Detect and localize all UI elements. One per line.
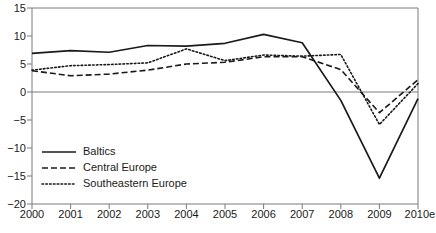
y-tick-marks xyxy=(27,8,32,204)
x-axis-tick-label: 2001 xyxy=(58,208,82,220)
axis-lines xyxy=(32,8,418,204)
legend-swatches xyxy=(42,152,76,184)
plot-area xyxy=(0,0,436,233)
x-axis-tick-label: 2004 xyxy=(174,208,198,220)
x-axis-tick-label: 2000 xyxy=(20,208,44,220)
x-axis-tick-label: 2003 xyxy=(136,208,160,220)
line-chart: 151050−5−10−15−20 BalticsCentral EuropeS… xyxy=(0,0,436,233)
series-line-southeastern-europe xyxy=(32,49,418,125)
legend-item-label: Central Europe xyxy=(83,161,157,173)
x-axis-tick-label: 2005 xyxy=(213,208,237,220)
x-axis-tick-label: 2006 xyxy=(251,208,275,220)
x-axis-tick-label: 2002 xyxy=(97,208,121,220)
x-axis: 2000200120022003200420052006200720082009… xyxy=(0,208,436,228)
x-axis-tick-label: 2007 xyxy=(290,208,314,220)
x-axis-tick-label: 2008 xyxy=(329,208,353,220)
legend-item-label: Southeastern Europe xyxy=(83,177,187,189)
x-axis-tick-label: 2010e xyxy=(405,208,436,220)
legend-item-label: Baltics xyxy=(83,145,115,157)
x-axis-tick-label: 2009 xyxy=(367,208,391,220)
